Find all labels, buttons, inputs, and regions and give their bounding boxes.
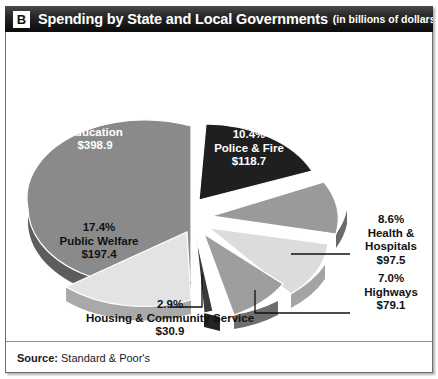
figure-container: B Spending by State and Local Government… [0, 0, 438, 379]
source-value: Standard & Poor's [61, 352, 150, 364]
slice-top-other [199, 124, 312, 200]
callout-highways: 7.0% Highways $79.1 [353, 272, 429, 313]
callout-housing: 2.9% Housing & Community Service $30.9 [58, 298, 282, 339]
page-title: Spending by State and Local Governments [38, 11, 328, 27]
callout-health-hospitals: 8.6% Health & Hospitals $97.5 [353, 213, 429, 267]
pie-chart: 18.7% Other $211.9 10.4% Police & Fire $… [6, 32, 432, 340]
source-line: Source: Standard & Poor's [17, 352, 150, 364]
panel-badge: B [13, 11, 30, 28]
source-label: Source: [17, 352, 58, 364]
source-divider [6, 341, 432, 342]
page-subtitle: (in billions of dollars) [333, 13, 433, 25]
title-bar: B Spending by State and Local Government… [5, 6, 433, 32]
